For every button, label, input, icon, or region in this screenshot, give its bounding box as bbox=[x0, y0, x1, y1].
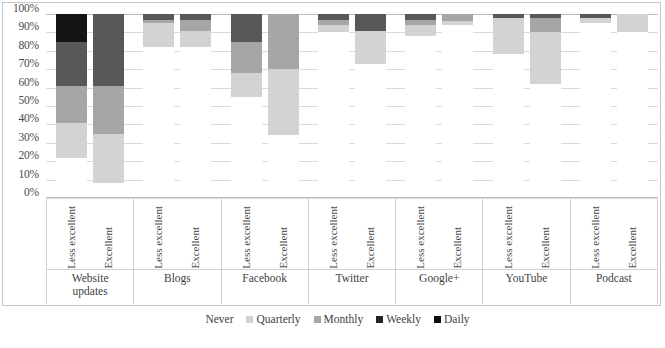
category-name: Podcast bbox=[596, 272, 632, 285]
stacked-bar[interactable] bbox=[93, 14, 124, 198]
stacked-bar[interactable] bbox=[56, 14, 87, 198]
bar-group bbox=[221, 14, 308, 198]
sub-category-label: Excellent bbox=[530, 199, 561, 269]
legend-swatch-weekly-icon bbox=[376, 316, 383, 323]
bar-segment-never[interactable] bbox=[493, 54, 524, 198]
bar-groups bbox=[46, 14, 658, 198]
bar-segment-quarterly[interactable] bbox=[405, 25, 436, 36]
y-axis-tick-label: 70% bbox=[19, 57, 39, 69]
sub-category-text: Excellent bbox=[278, 227, 289, 269]
sub-category-text: Excellent bbox=[190, 227, 201, 269]
bar-segment-never[interactable] bbox=[617, 32, 648, 198]
legend-label: Weekly bbox=[386, 313, 421, 325]
y-axis-tick-label: 80% bbox=[19, 39, 39, 51]
stacked-bar[interactable] bbox=[143, 14, 174, 198]
sub-category-row: Less excellentExcellent bbox=[222, 199, 308, 269]
sub-category-label: Less excellent bbox=[493, 199, 524, 269]
bar-segment-quarterly[interactable] bbox=[530, 32, 561, 84]
bar-segment-never[interactable] bbox=[318, 32, 349, 198]
bar-segment-monthly[interactable] bbox=[530, 18, 561, 33]
sub-category-text: Excellent bbox=[540, 227, 551, 269]
bar-group bbox=[308, 14, 395, 198]
stacked-bar[interactable] bbox=[580, 14, 611, 198]
bar-segment-quarterly[interactable] bbox=[231, 73, 262, 97]
bar-segment-never[interactable] bbox=[580, 23, 611, 198]
bar-segment-never[interactable] bbox=[56, 158, 87, 198]
x-axis-baseline bbox=[46, 197, 658, 198]
legend-item[interactable]: Monthly bbox=[314, 313, 364, 325]
sub-category-label: Excellent bbox=[442, 199, 473, 269]
bar-segment-monthly[interactable] bbox=[442, 14, 473, 21]
bar-segment-monthly[interactable] bbox=[56, 86, 87, 123]
y-axis: 100%90%80%70%60%50%40%30%20%10%0% bbox=[0, 8, 42, 198]
legend-item[interactable]: Quarterly bbox=[246, 313, 300, 325]
bar-segment-monthly[interactable] bbox=[93, 86, 124, 134]
bar-segment-quarterly[interactable] bbox=[143, 23, 174, 47]
bar-segment-weekly[interactable] bbox=[355, 14, 386, 31]
stacked-bar[interactable] bbox=[405, 14, 436, 198]
y-axis-tick-label: 30% bbox=[19, 131, 39, 143]
sub-category-text: Less excellent bbox=[415, 206, 426, 269]
legend-label: Quarterly bbox=[256, 313, 300, 325]
sub-category-label: Excellent bbox=[617, 199, 648, 269]
bar-segment-daily[interactable] bbox=[56, 14, 87, 42]
sub-category-row: Less excellentExcellent bbox=[483, 199, 569, 269]
bar-segment-quarterly[interactable] bbox=[268, 69, 299, 135]
y-axis-tick-label: 20% bbox=[19, 149, 39, 161]
stacked-bar[interactable] bbox=[355, 14, 386, 198]
category-name-row: Facebook bbox=[222, 269, 308, 304]
bar-segment-never[interactable] bbox=[180, 47, 211, 198]
bar-segment-never[interactable] bbox=[530, 84, 561, 198]
category-name-row: Podcast bbox=[571, 269, 657, 304]
bar-segment-never[interactable] bbox=[93, 183, 124, 198]
legend-item[interactable]: Never bbox=[195, 313, 233, 325]
bar-segment-quarterly[interactable] bbox=[56, 123, 87, 158]
legend-item[interactable]: Daily bbox=[434, 313, 470, 325]
category-name-row: YouTube bbox=[483, 269, 569, 304]
legend-swatch-monthly-icon bbox=[314, 316, 321, 323]
bar-segment-quarterly[interactable] bbox=[355, 31, 386, 64]
bar-segment-never[interactable] bbox=[268, 135, 299, 198]
category-name: Facebook bbox=[242, 272, 287, 285]
stacked-bar[interactable] bbox=[318, 14, 349, 198]
bar-segment-never[interactable] bbox=[355, 64, 386, 198]
bar-segment-never[interactable] bbox=[143, 47, 174, 198]
bar-segment-quarterly[interactable] bbox=[493, 18, 524, 55]
category-axis: Less excellentExcellentWebsite updatesLe… bbox=[46, 199, 658, 304]
y-axis-tick-label: 0% bbox=[24, 186, 39, 198]
stacked-bar[interactable] bbox=[530, 14, 561, 198]
stacked-bar[interactable] bbox=[231, 14, 262, 198]
sub-category-row: Less excellentExcellent bbox=[134, 199, 220, 269]
category-cell: Less excellentExcellentPodcast bbox=[570, 199, 658, 304]
category-name-row: Twitter bbox=[309, 269, 395, 304]
bar-group bbox=[396, 14, 483, 198]
stacked-bar[interactable] bbox=[617, 14, 648, 198]
bar-segment-weekly[interactable] bbox=[93, 14, 124, 86]
bar-segment-monthly[interactable] bbox=[180, 20, 211, 31]
category-cell: Less excellentExcellentBlogs bbox=[133, 199, 220, 304]
sub-category-label: Less excellent bbox=[56, 199, 87, 269]
bar-segment-quarterly[interactable] bbox=[93, 134, 124, 184]
bar-segment-weekly[interactable] bbox=[56, 42, 87, 86]
bar-segment-quarterly[interactable] bbox=[180, 31, 211, 48]
stacked-bar[interactable] bbox=[493, 14, 524, 198]
legend-swatch-daily-icon bbox=[434, 316, 441, 323]
stacked-bar[interactable] bbox=[180, 14, 211, 198]
bar-segment-never[interactable] bbox=[231, 97, 262, 198]
stacked-bar[interactable] bbox=[442, 14, 473, 198]
bar-segment-weekly[interactable] bbox=[231, 14, 262, 42]
bar-segment-never[interactable] bbox=[405, 36, 436, 198]
legend-label: Never bbox=[205, 313, 233, 325]
bar-group bbox=[483, 14, 570, 198]
y-axis-tick-label: 50% bbox=[19, 94, 39, 106]
legend-item[interactable]: Weekly bbox=[376, 313, 421, 325]
stacked-bar[interactable] bbox=[268, 14, 299, 198]
plot-area bbox=[46, 14, 658, 198]
bar-segment-monthly[interactable] bbox=[268, 14, 299, 69]
legend-swatch-never-icon bbox=[195, 316, 202, 323]
bar-segment-monthly[interactable] bbox=[231, 42, 262, 73]
bar-segment-quarterly[interactable] bbox=[617, 14, 648, 32]
sub-category-text: Less excellent bbox=[241, 206, 252, 269]
bar-segment-never[interactable] bbox=[442, 25, 473, 198]
bar-segment-quarterly[interactable] bbox=[318, 25, 349, 32]
